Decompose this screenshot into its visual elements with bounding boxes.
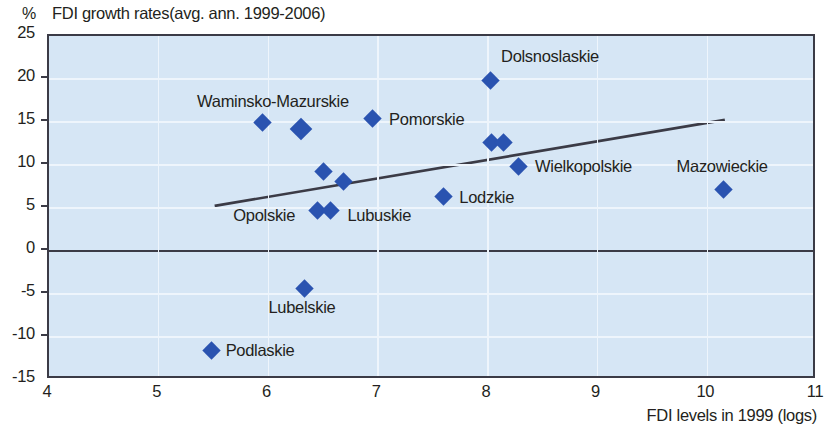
y-axis-unit-label: %	[22, 5, 36, 23]
gridline-horizontal	[49, 78, 813, 80]
y-axis-tick	[41, 162, 48, 164]
gridline-vertical	[707, 36, 709, 376]
data-point-label: Lodzkie	[459, 188, 514, 207]
data-point-marker[interactable]	[202, 342, 220, 360]
gridline-horizontal	[49, 293, 813, 295]
data-point-marker[interactable]	[322, 201, 340, 219]
gridline-horizontal	[49, 207, 813, 209]
x-axis-tick-label: 6	[246, 382, 286, 401]
y-axis-tick-label: -5	[0, 281, 35, 300]
data-point-marker[interactable]	[295, 280, 313, 298]
y-axis-tick	[41, 291, 48, 293]
y-axis-tick-label: 10	[0, 152, 35, 171]
data-point-label: Waminsko-Mazurskie	[197, 92, 349, 111]
x-axis-tick-label: 9	[576, 382, 616, 401]
data-point-label: Lubelskie	[268, 298, 335, 317]
x-axis-tick-label: 8	[466, 382, 506, 401]
y-axis-tick-label: 20	[0, 66, 35, 85]
data-point-label: Mazowieckie	[677, 157, 768, 176]
y-axis-tick	[41, 119, 48, 121]
y-axis-tick-label: 25	[0, 23, 35, 42]
x-axis-tick-label: 5	[137, 382, 177, 401]
data-point-marker[interactable]	[254, 114, 272, 132]
y-axis-tick	[41, 248, 48, 250]
y-axis-tick-label: 15	[0, 109, 35, 128]
data-point-marker[interactable]	[363, 109, 381, 127]
fdi-scatter-chart: % FDI growth rates(avg. ann. 1999-2006) …	[0, 0, 829, 436]
x-axis-title: FDI levels in 1999 (logs)	[647, 406, 817, 425]
y-axis-tick	[41, 76, 48, 78]
x-axis-tick-label: 11	[795, 382, 829, 401]
plot-inner: Waminsko-MazurskiePomorskieDolsnoslaskie…	[49, 36, 813, 376]
data-point-marker[interactable]	[435, 188, 453, 206]
y-axis-tick	[41, 334, 48, 336]
data-point-label: Opolskie	[233, 206, 295, 225]
y-axis-tick-label: 0	[0, 238, 35, 257]
y-axis-tick-label: 5	[0, 195, 35, 214]
chart-title: FDI growth rates(avg. ann. 1999-2006)	[52, 4, 325, 23]
data-point-label: Lubuskie	[347, 206, 411, 225]
gridline-vertical	[158, 36, 160, 376]
data-point-marker[interactable]	[509, 158, 527, 176]
x-axis-tick-label: 10	[685, 382, 725, 401]
plot-area: Waminsko-MazurskiePomorskieDolsnoslaskie…	[47, 34, 815, 378]
x-axis-tick-label: 4	[27, 382, 67, 401]
trend-line-layer	[49, 36, 813, 376]
y-axis-tick	[41, 205, 48, 207]
data-point-marker[interactable]	[494, 133, 512, 151]
data-point-label: Dolsnoslaskie	[501, 47, 599, 66]
x-axis-tick-label: 7	[356, 382, 396, 401]
data-point-label: Wielkopolskie	[535, 157, 632, 176]
data-point-label: Pomorskie	[389, 110, 464, 129]
zero-baseline	[49, 250, 813, 252]
data-point-marker[interactable]	[334, 172, 352, 190]
gridline-vertical	[597, 36, 599, 376]
data-point-marker[interactable]	[715, 181, 733, 199]
data-point-marker[interactable]	[481, 72, 499, 90]
gridline-horizontal	[49, 336, 813, 338]
data-point-label: Podlaskie	[226, 341, 295, 360]
y-axis-tick-label: -10	[0, 324, 35, 343]
